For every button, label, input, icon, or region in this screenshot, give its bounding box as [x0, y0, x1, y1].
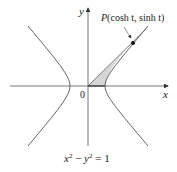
ray-to-p: [88, 29, 146, 86]
x-axis-label: x: [162, 88, 168, 100]
hyperbola-diagram: y x 0 P(cosh t, sinh t) x2 − y2 = 1: [0, 0, 177, 172]
point-label: P(cosh t, sinh t): [100, 12, 164, 24]
equation-label: x2 − y2 = 1: [63, 152, 110, 164]
y-axis-label: y: [78, 5, 84, 17]
pointer-arrow: [124, 27, 131, 38]
origin-label: 0: [80, 89, 85, 100]
point-p: [131, 41, 135, 45]
